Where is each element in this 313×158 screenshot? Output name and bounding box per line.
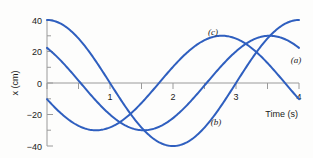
y-tick-label-0: 0 [37,79,42,89]
y-tick-label-20: 20 [32,47,42,57]
figure-container: 40 20 0 −20 −40 1 2 3 4 Time (s) x (cm) [0,0,313,158]
x-axis-title: Time (s) [265,109,298,119]
curve-label-a: (a) [291,55,302,65]
x-tick-label-3: 3 [233,92,238,102]
y-axis-title: x (cm) [10,71,20,96]
y-tick-label-neg40: −40 [27,142,42,152]
x-tick-label-1: 1 [107,92,112,102]
oscillation-chart: 40 20 0 −20 −40 1 2 3 4 Time (s) x (cm) [0,0,313,158]
curve-label-b: (b) [211,117,222,127]
y-tick-label-40: 40 [32,16,42,26]
curve-label-c: (c) [208,27,218,37]
y-tick-label-neg20: −20 [27,110,42,120]
x-tick-label-2: 2 [170,92,175,102]
